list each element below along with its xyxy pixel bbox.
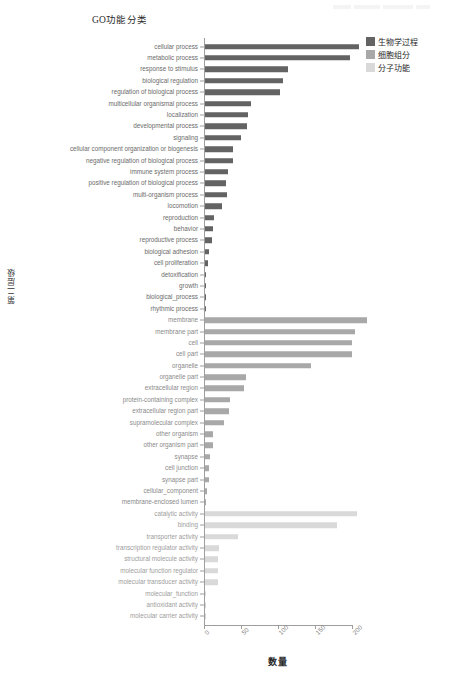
y-axis-tick	[200, 103, 204, 104]
bar	[205, 466, 209, 472]
bar-category-label: molecular function regulator	[120, 568, 198, 574]
bar	[205, 146, 233, 152]
bar-category-label: biological_process	[146, 294, 198, 300]
bar	[205, 181, 226, 187]
bar-category-label: antioxidant activity	[147, 602, 198, 608]
y-axis-tick	[200, 308, 204, 309]
y-axis-tick	[200, 422, 204, 423]
y-axis-tick	[200, 80, 204, 81]
bar	[205, 329, 355, 335]
bar-category-label: supramolecular complex	[130, 420, 198, 426]
bar-category-label: membrane-enclosed lumen	[122, 499, 198, 505]
y-axis-tick	[200, 365, 204, 366]
bar-category-label: multicellular organismal process	[108, 100, 198, 106]
bar-category-label: molecular carrier activity	[130, 613, 198, 619]
bar	[205, 477, 209, 483]
y-axis-tick	[200, 491, 204, 492]
legend-label: 细胞组分	[378, 49, 410, 60]
bar-category-label: structural molecule activity	[124, 556, 198, 562]
y-axis-tick	[200, 228, 204, 229]
bar	[205, 78, 283, 84]
y-axis-tick	[200, 217, 204, 218]
bar-category-label: positive regulation of biological proces…	[88, 180, 198, 186]
legend-swatch-icon	[366, 37, 375, 46]
y-axis-tick	[200, 536, 204, 537]
y-axis-tick	[200, 548, 204, 549]
y-axis-tick	[200, 445, 204, 446]
bar-category-label: multi-organism process	[133, 192, 198, 198]
legend-label: 生物学过程	[378, 36, 418, 47]
bar	[205, 283, 206, 289]
bar	[205, 44, 359, 50]
bar-category-label: extracellular region	[145, 385, 198, 391]
bar-category-label: other organism part	[143, 442, 198, 448]
bar	[205, 534, 238, 540]
bar-category-label: synapse part	[162, 477, 198, 483]
bar-category-label: biological adhesion	[144, 249, 198, 255]
legend-item: 细胞组分	[366, 49, 418, 60]
y-axis-tick	[200, 206, 204, 207]
y-axis-tick	[200, 502, 204, 503]
legend-swatch-icon	[366, 63, 375, 72]
bar-category-label: molecular_function	[145, 590, 198, 596]
bar	[205, 488, 207, 494]
y-axis-tick	[200, 69, 204, 70]
chart-page: GO功能分类 第二层级 cellular processmetabolic pr…	[0, 0, 455, 680]
bar-category-label: reproduction	[163, 214, 198, 220]
y-axis-tick	[200, 479, 204, 480]
y-axis-tick	[200, 593, 204, 594]
bar-category-label: developmental process	[133, 123, 198, 129]
bar	[205, 192, 227, 198]
y-axis-tick	[200, 263, 204, 264]
bar	[205, 226, 213, 232]
y-axis-tick	[200, 513, 204, 514]
bar	[205, 249, 209, 255]
bar	[205, 363, 311, 369]
bar	[205, 203, 222, 209]
bar-category-label: biological regulation	[142, 78, 198, 84]
bar-category-label: response to stimulus	[140, 66, 198, 72]
bar-category-label: molecular transducer activity	[118, 579, 198, 585]
y-axis-tick	[200, 616, 204, 617]
y-axis-tick	[200, 171, 204, 172]
y-axis-tick	[200, 377, 204, 378]
y-axis-tick	[200, 388, 204, 389]
bar-category-label: membrane	[168, 317, 198, 323]
y-axis-tick	[200, 251, 204, 252]
bar	[205, 409, 229, 415]
bar-category-label: other organism	[156, 431, 198, 437]
y-axis-tick	[200, 137, 204, 138]
bar-category-label: organelle part	[159, 374, 198, 380]
bar-category-label: rhythmic process	[150, 306, 198, 312]
y-axis-tick	[200, 160, 204, 161]
y-axis-tick	[200, 411, 204, 412]
bar-category-label: cellular process	[154, 43, 198, 49]
y-axis-tick	[200, 342, 204, 343]
bar-category-label: locomotion	[168, 203, 198, 209]
bar	[205, 135, 241, 141]
bar	[205, 306, 206, 312]
bar	[205, 340, 352, 346]
bar-category-label: regulation of biological process	[112, 89, 198, 95]
bar	[205, 511, 357, 517]
y-axis-tick	[200, 559, 204, 560]
y-axis-tick	[200, 331, 204, 332]
legend-item: 生物学过程	[366, 36, 418, 47]
bar	[205, 580, 218, 586]
bar-category-label: extracellular region part	[132, 408, 198, 414]
bar-category-label: cell junction	[165, 465, 198, 471]
bar	[205, 500, 206, 506]
legend-label: 分子功能	[378, 62, 410, 73]
y-axis-tick	[200, 570, 204, 571]
y-axis-tick	[200, 46, 204, 47]
y-axis-tick	[200, 114, 204, 115]
bar	[205, 568, 218, 574]
bar-category-label: cell proliferation	[154, 260, 198, 266]
bar-row: molecular carrier activity	[0, 610, 455, 623]
bar	[205, 124, 247, 130]
bar	[205, 260, 208, 266]
bar	[205, 420, 224, 426]
y-axis-tick	[200, 468, 204, 469]
bar	[205, 169, 228, 175]
bar	[205, 101, 251, 107]
